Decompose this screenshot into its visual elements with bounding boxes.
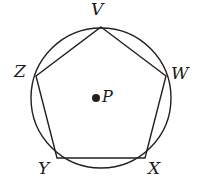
geometry-figure: V W X Y Z P [0, 0, 208, 188]
vertex-label-w: W [171, 65, 188, 82]
vertex-label-z: Z [14, 63, 26, 80]
vertex-label-y: Y [38, 160, 49, 177]
center-point-label: P [102, 89, 113, 105]
vertex-label-v: V [91, 1, 103, 18]
center-point-dot [92, 94, 100, 102]
vertex-label-x: X [148, 160, 160, 177]
circumscribed-circle [31, 28, 171, 168]
inscribed-pentagon [36, 27, 166, 158]
